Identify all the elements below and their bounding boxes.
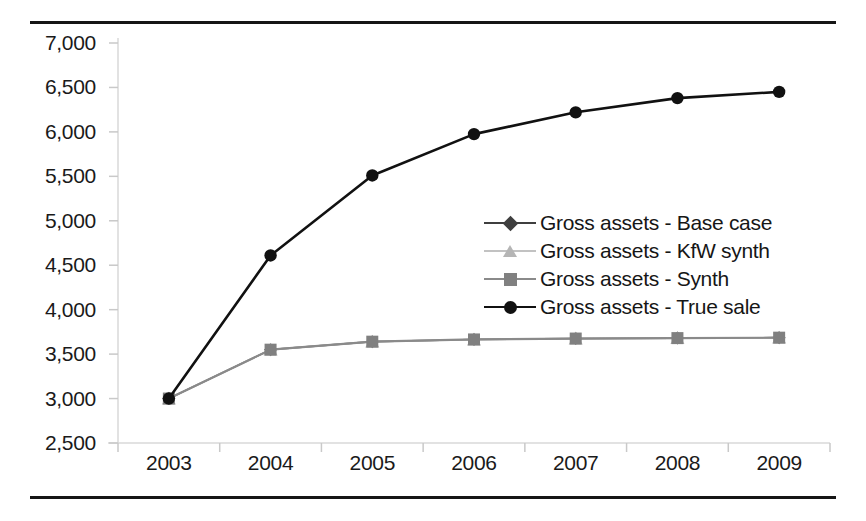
x-axis-tick-label: 2009 [756,451,802,475]
legend-marker-triangle-icon [484,241,536,261]
legend-item-label: Gross assets - Base case [540,211,772,235]
legend-item[interactable]: Gross assets - Synth [484,265,824,293]
legend-item[interactable]: Gross assets - True sale [484,293,824,321]
legend-key-marker [504,273,517,286]
legend-marker-diamond-icon [484,213,536,233]
line-chart: 7,0006,5006,0005,5005,0004,5004,0003,500… [0,28,866,490]
legend-item-label: Gross assets - True sale [540,295,760,319]
page-rule-top [30,21,836,24]
x-axis-tick-label: 2008 [655,451,701,475]
x-axis-tick-label: 2007 [553,451,599,475]
legend-item[interactable]: Gross assets - Base case [484,209,824,237]
legend-item[interactable]: Gross assets - KfW synth [484,237,824,265]
legend-marker-square-icon [484,269,536,289]
legend-item-label: Gross assets - Synth [540,267,729,291]
page-rule-bottom [30,496,836,499]
x-axis-tick-label: 2003 [146,451,192,475]
legend-key-marker [503,245,517,257]
x-axis-tick-label: 2005 [350,451,396,475]
figure-page: 7,0006,5006,0005,5005,0004,5004,0003,500… [0,0,866,521]
legend-key-marker [502,215,518,231]
x-axis-tick-label: 2006 [451,451,497,475]
chart-legend: Gross assets - Base caseGross assets - K… [484,209,824,321]
legend-item-label: Gross assets - KfW synth [540,239,770,263]
x-axis-tick-label: 2004 [248,451,294,475]
legend-key-marker [504,301,517,314]
legend-marker-circle-icon [484,297,536,317]
